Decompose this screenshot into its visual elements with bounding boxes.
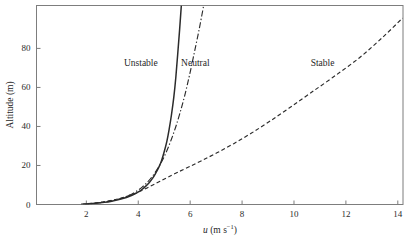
y-tick-label-20: 20 — [13, 161, 31, 170]
curve-label-unstable: Unstable — [124, 59, 158, 69]
curve-label-neutral: Neutral — [181, 59, 210, 69]
x-axis-unit-prefix: (m s — [208, 225, 227, 235]
plot-border — [37, 6, 404, 205]
curve-label-stable: Stable — [311, 59, 335, 69]
x-tick-label-14: 14 — [393, 210, 402, 219]
y-axis-title: Altitude (m) — [6, 81, 16, 128]
y-tick-label-80: 80 — [13, 44, 31, 53]
x-tick-label-12: 12 — [341, 210, 350, 219]
plot-frame — [37, 6, 404, 205]
wind-profile-chart: 2468101214 020406080 UnstableNeutralStab… — [0, 0, 416, 243]
x-axis-unit-exponent: −1 — [227, 223, 234, 230]
x-tick-label-6: 6 — [188, 210, 193, 219]
x-tick-label-8: 8 — [240, 210, 245, 219]
x-axis-unit-suffix: ) — [234, 225, 237, 235]
x-tick-label-10: 10 — [289, 210, 298, 219]
x-tick-label-2: 2 — [84, 210, 89, 219]
x-axis-title: u (m s−1) — [203, 226, 237, 236]
y-tick-label-0: 0 — [13, 200, 31, 209]
chart-canvas — [0, 0, 416, 243]
x-tick-label-4: 4 — [136, 210, 141, 219]
